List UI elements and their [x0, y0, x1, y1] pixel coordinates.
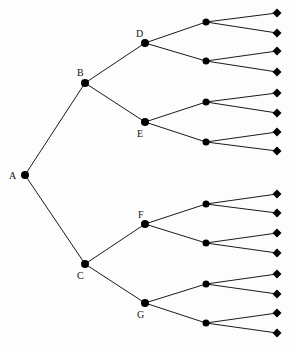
edge-b-e [85, 83, 145, 122]
edge-d-level3-1 [145, 43, 206, 61]
edge-level3-leaf-0 [206, 13, 277, 22]
leaf-diamond-icon-1 [273, 29, 282, 38]
level3-node-0 [203, 19, 210, 26]
edge-level3-leaf-9 [206, 204, 277, 213]
node-label-e: E [137, 128, 143, 139]
leaf-diamond-icon-6 [273, 128, 282, 137]
level3-node-3 [203, 139, 210, 146]
node-f [141, 220, 149, 228]
leaf-diamond-icon-15 [273, 329, 282, 338]
edge-level3-leaf-3 [206, 61, 277, 72]
node-label-f: F [138, 209, 144, 220]
leaf-diamond-icon-10 [273, 229, 282, 238]
edge-a-c [25, 175, 85, 264]
edge-level3-leaf-7 [206, 142, 277, 151]
edge-c-f [85, 224, 145, 264]
leaf-diamond-icon-8 [273, 190, 282, 199]
labels-layer: ABCDEFG [9, 28, 144, 320]
leaf-diamond-icon-14 [273, 309, 282, 318]
edge-level3-leaf-5 [206, 102, 277, 113]
level3-node-4 [203, 201, 210, 208]
edge-level3-leaf-4 [206, 93, 277, 102]
leaf-diamond-icon-13 [273, 290, 282, 299]
edge-a-b [25, 83, 85, 175]
node-a [21, 171, 29, 179]
edge-f-level3-4 [145, 204, 206, 224]
leaf-diamond-icon-11 [273, 249, 282, 258]
leaf-diamond-icon-7 [273, 147, 282, 156]
tree-diagram-svg: ABCDEFG [0, 0, 295, 351]
edge-d-level3-0 [145, 22, 206, 43]
node-c [81, 260, 89, 268]
level3-node-5 [203, 240, 210, 247]
tree-diagram: ABCDEFG [0, 0, 295, 351]
edge-g-level3-6 [145, 284, 206, 303]
edge-level3-leaf-1 [206, 22, 277, 33]
edge-level3-leaf-15 [206, 323, 277, 333]
edges-layer [25, 13, 277, 333]
edge-f-level3-5 [145, 224, 206, 243]
node-d [141, 39, 149, 47]
leaf-diamond-icon-5 [273, 109, 282, 118]
leaf-diamond-icon-12 [273, 270, 282, 279]
node-label-g: G [137, 309, 144, 320]
edge-level3-leaf-12 [206, 274, 277, 284]
edge-level3-leaf-2 [206, 51, 277, 61]
node-b [81, 79, 89, 87]
edge-level3-leaf-6 [206, 132, 277, 142]
edge-e-level3-2 [145, 102, 206, 122]
leaf-diamond-icon-3 [273, 68, 282, 77]
node-label-b: B [77, 67, 84, 78]
edge-level3-leaf-14 [206, 313, 277, 323]
edge-e-level3-3 [145, 122, 206, 142]
edge-level3-leaf-10 [206, 233, 277, 243]
level3-node-7 [203, 320, 210, 327]
leaf-diamond-icon-4 [273, 89, 282, 98]
level3-node-2 [203, 99, 210, 106]
node-label-d: D [136, 28, 143, 39]
leaf-diamond-icon-2 [273, 47, 282, 56]
edge-g-level3-7 [145, 303, 206, 323]
level3-node-6 [203, 281, 210, 288]
node-label-a: A [9, 170, 17, 181]
leaf-diamond-icon-9 [273, 209, 282, 218]
node-label-c: C [77, 270, 84, 281]
edge-c-g [85, 264, 145, 303]
leaf-diamond-icon-0 [273, 9, 282, 18]
nodes-layer [21, 9, 282, 338]
edge-b-d [85, 43, 145, 83]
edge-level3-leaf-11 [206, 243, 277, 253]
node-g [141, 299, 149, 307]
level3-node-1 [203, 58, 210, 65]
edge-level3-leaf-8 [206, 194, 277, 204]
edge-level3-leaf-13 [206, 284, 277, 294]
node-e [141, 118, 149, 126]
